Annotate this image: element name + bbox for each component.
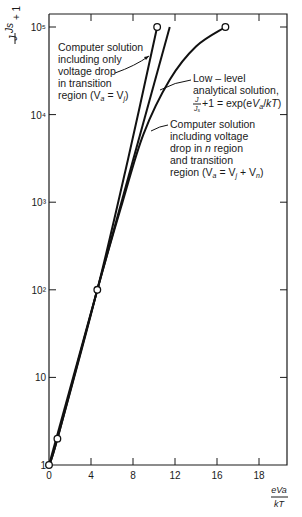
x-axis-label: eVa kT (271, 485, 288, 509)
y-tick-label: 10 (35, 372, 47, 383)
y-tick-label: 10⁴ (31, 110, 46, 121)
svg-text:J: J (194, 96, 199, 103)
x-tick-label: 0 (46, 470, 52, 481)
annotation-n-and-transition: Computer solution including voltage drop… (151, 118, 263, 180)
annotation-analytical: Low – level analytical solution, J Js +1… (160, 72, 281, 113)
x-tick-label: 8 (130, 470, 136, 481)
svg-text:Js: Js (193, 105, 201, 113)
svg-text:Computer solution: Computer solution (170, 118, 255, 130)
svg-text:region (Va = Vj): region (Va = Vj) (58, 89, 129, 103)
x-tick-label: 18 (253, 470, 265, 481)
data-point-marker (54, 435, 61, 442)
data-point-marker (94, 287, 101, 294)
x-axis-label-numerator: eVa (271, 485, 287, 495)
svg-text:analytical solution,: analytical solution, (193, 84, 279, 96)
svg-text:voltage drop: voltage drop (58, 65, 116, 77)
data-point-marker (154, 24, 161, 31)
analytical-equation: J Js +1 = exp(eVa/kT) (193, 96, 281, 113)
y-axis-label: J Js + 1 (4, 5, 22, 44)
y-tick-label: 10² (32, 285, 47, 296)
y-axis-label-plus-one: + 1 (11, 5, 22, 20)
y-tick-label: 10⁵ (31, 22, 46, 33)
chart: 11010²10³10⁴10⁵ 048121618 J Js + 1 eVa k… (0, 0, 302, 517)
svg-text:including voltage: including voltage (170, 130, 248, 142)
x-axis-label-denominator: kT (274, 499, 286, 509)
x-tick-label: 16 (211, 470, 223, 481)
svg-text:drop in n region: drop in n region (170, 142, 243, 154)
y-tick-label: 10³ (32, 197, 47, 208)
svg-text:Low – level: Low – level (193, 72, 246, 84)
x-tick-label: 4 (88, 470, 94, 481)
data-point-marker (46, 462, 53, 469)
leader-line (151, 125, 168, 131)
y-axis-label-denominator: Js (4, 23, 15, 34)
svg-text:region (Va = Vj + Vn): region (Va = Vj + Vn) (170, 166, 263, 180)
svg-text:including only: including only (58, 53, 122, 65)
svg-text:in transition: in transition (58, 77, 112, 89)
annotation-transition-only: Computer solution including only voltage… (58, 41, 149, 103)
y-axis-label-numerator: J (8, 35, 19, 42)
x-tick-label: 12 (169, 470, 181, 481)
svg-text:+1 = exp(eVa/kT): +1 = exp(eVa/kT) (202, 97, 281, 110)
svg-text:Computer solution: Computer solution (58, 41, 143, 53)
data-point-marker (222, 24, 229, 31)
svg-text:and transition: and transition (170, 154, 233, 166)
